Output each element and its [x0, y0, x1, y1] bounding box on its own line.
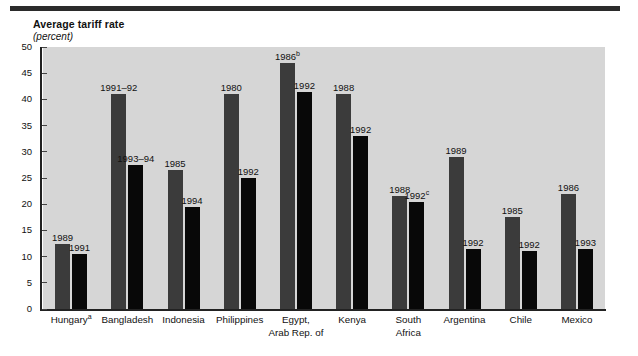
y-axis-tick-label: 40	[21, 93, 32, 104]
bar-later-wrapper: 1994	[185, 47, 200, 309]
bar-later-wrapper: 1992	[353, 47, 368, 309]
bar-later[interactable]	[353, 136, 368, 309]
bar-later[interactable]	[522, 251, 537, 309]
x-axis-category-label: Egypt,Arab Rep. of	[268, 314, 324, 339]
bar-earlier-wrapper: 1989	[449, 47, 464, 309]
y-axis-tick-label: 45	[21, 67, 32, 78]
y-axis-tick-label: 0	[27, 303, 32, 314]
x-axis-category-label: Indonesia	[155, 314, 211, 339]
y-axis-tick-label: 30	[21, 146, 32, 157]
top-rule-divider	[10, 6, 620, 11]
x-axis-label-line: Hungarya	[43, 314, 99, 327]
bar-later[interactable]	[128, 165, 143, 309]
bar-value-label: 1993–94	[117, 153, 154, 164]
bar-pair: 19801992	[224, 47, 256, 309]
x-axis-label-line: Africa	[380, 327, 436, 340]
bar-earlier-wrapper: 1986b	[280, 47, 295, 309]
bar-value-label: 1992	[519, 239, 540, 250]
bar-earlier[interactable]	[168, 170, 183, 309]
bar-earlier[interactable]	[111, 94, 126, 309]
bar-later[interactable]	[578, 249, 593, 309]
bar-earlier-wrapper: 1986	[561, 47, 576, 309]
bar-later[interactable]	[72, 254, 87, 309]
bar-earlier-wrapper: 1988	[336, 47, 351, 309]
bar-value-label: 1986	[558, 182, 579, 193]
bar-group: 19881992c	[380, 47, 436, 309]
x-axis-label-line: Indonesia	[155, 314, 211, 327]
bar-later-wrapper: 1993	[578, 47, 593, 309]
bar-earlier[interactable]	[392, 196, 407, 309]
bar-later-wrapper: 1992	[297, 47, 312, 309]
bar-earlier[interactable]	[55, 244, 70, 310]
bar-pair: 19851992	[505, 47, 537, 309]
x-axis-label-line: Philippines	[212, 314, 268, 327]
x-axis-label-line: Arab Rep. of	[268, 327, 324, 340]
bar-earlier-wrapper: 1980	[224, 47, 239, 309]
bar-group: 19801992	[212, 47, 268, 309]
bar-later[interactable]	[185, 207, 200, 309]
x-axis-category-label: SouthAfrica	[380, 314, 436, 339]
bar-value-label: 1992	[350, 124, 371, 135]
x-axis-category-label: Chile	[493, 314, 549, 339]
footnote-marker: a	[88, 313, 92, 320]
bar-value-label: 1988	[333, 82, 354, 93]
footnote-marker: c	[426, 188, 430, 195]
x-axis-category-label: Bangladesh	[99, 314, 155, 339]
bar-earlier[interactable]	[449, 157, 464, 309]
x-axis-category-label: Mexico	[549, 314, 605, 339]
bar-pair: 19891992	[449, 47, 481, 309]
bar-group: 1986b1992	[268, 47, 324, 309]
bar-earlier[interactable]	[561, 194, 576, 309]
y-axis-tick-label: 50	[21, 41, 32, 52]
y-axis-tick-label: 20	[21, 198, 32, 209]
x-axis-label-line: Kenya	[324, 314, 380, 327]
bar-earlier[interactable]	[505, 217, 520, 309]
bar-value-label: 1985	[164, 158, 185, 169]
y-axis-tick-label: 10	[21, 251, 32, 262]
x-axis-labels: HungaryaBangladeshIndonesiaPhilippinesEg…	[43, 314, 605, 339]
x-axis-category-label: Argentina	[436, 314, 492, 339]
bar-value-label: 1992c	[404, 190, 429, 201]
bar-later[interactable]	[241, 178, 256, 309]
bar-groups: 198919911991–921993–94198519941980199219…	[43, 47, 605, 309]
bar-value-label: 1980	[221, 82, 242, 93]
bar-pair: 1986b1992	[280, 47, 312, 309]
bar-group: 19851992	[493, 47, 549, 309]
bar-later[interactable]	[297, 92, 312, 309]
bar-later-wrapper: 1993–94	[128, 47, 143, 309]
bar-pair: 19851994	[168, 47, 200, 309]
bar-value-label: 1992	[294, 80, 315, 91]
bar-pair: 19891991	[55, 47, 87, 309]
bar-later[interactable]	[409, 202, 424, 309]
x-axis-label-line: Egypt,	[268, 314, 324, 327]
x-axis-baseline	[40, 309, 606, 311]
title-block: Average tariff rate (percent)	[33, 18, 124, 43]
x-axis-label-line: Bangladesh	[99, 314, 155, 327]
x-axis-category-label: Hungarya	[43, 314, 99, 339]
x-axis-label-line: Mexico	[549, 314, 605, 327]
bar-value-label: 1991	[69, 242, 90, 253]
y-axis-line	[40, 47, 42, 311]
bar-group: 19891992	[436, 47, 492, 309]
bar-earlier-wrapper: 1989	[55, 47, 70, 309]
y-axis-tick-label: 15	[21, 224, 32, 235]
bar-earlier-wrapper: 1985	[505, 47, 520, 309]
bar-earlier-wrapper: 1991–92	[111, 47, 126, 309]
bar-later[interactable]	[466, 249, 481, 309]
y-axis-tick-label: 25	[21, 172, 32, 183]
bar-group: 19851994	[155, 47, 211, 309]
bar-value-label: 1994	[181, 195, 202, 206]
bar-earlier[interactable]	[280, 63, 295, 309]
bar-earlier-wrapper: 1985	[168, 47, 183, 309]
bar-earlier[interactable]	[224, 94, 239, 309]
bar-pair: 19861993	[561, 47, 593, 309]
x-axis-label-line: Chile	[493, 314, 549, 327]
bar-group: 19891991	[43, 47, 99, 309]
bar-group: 1991–921993–94	[99, 47, 155, 309]
bar-group: 19861993	[549, 47, 605, 309]
figure-root: Average tariff rate (percent) 0510152025…	[0, 0, 638, 356]
x-axis-category-label: Philippines	[212, 314, 268, 339]
bar-earlier[interactable]	[336, 94, 351, 309]
bar-value-label: 1993	[575, 237, 596, 248]
bar-value-label: 1992	[462, 237, 483, 248]
